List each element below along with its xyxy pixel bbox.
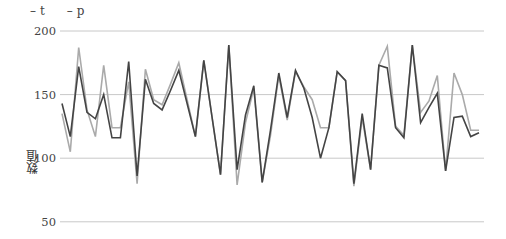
series-line-t [62, 45, 479, 184]
y-tick-label: 150 [34, 88, 56, 102]
y-tick-label: 200 [34, 24, 56, 38]
y-tick-label: 50 [41, 215, 56, 229]
series-line-p [62, 45, 479, 186]
y-axis-ticks: 50100150200 [34, 24, 56, 229]
series-lines [62, 45, 479, 186]
y-tick-label: 100 [34, 151, 56, 165]
line-chart: 50100150200 [0, 0, 506, 239]
